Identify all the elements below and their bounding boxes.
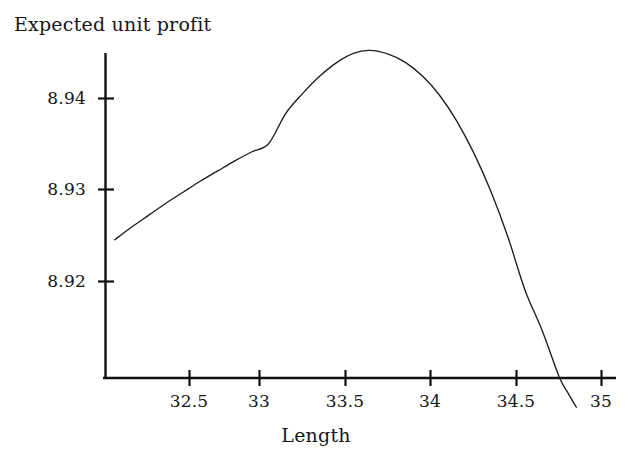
x-tick-label-325: 32.5: [153, 391, 225, 411]
x-axis-title: Length: [0, 424, 635, 446]
x-tick-label-345: 34.5: [480, 391, 552, 411]
x-tick-label-35: 35: [565, 391, 637, 411]
y-tick-label-892: 8.92: [24, 271, 86, 291]
y-axis-title: Expected unit profit: [14, 13, 211, 35]
x-tick-label-33: 33: [223, 391, 295, 411]
chart-figure: Expected unit profit 8.94 8.93 8.92 32.5…: [0, 0, 638, 471]
x-tick-label-335: 33.5: [309, 391, 381, 411]
x-tick-label-34: 34: [394, 391, 466, 411]
expected-profit-curve: [115, 50, 577, 407]
y-tick-label-894: 8.94: [24, 88, 86, 108]
y-tick-label-893: 8.93: [24, 179, 86, 199]
